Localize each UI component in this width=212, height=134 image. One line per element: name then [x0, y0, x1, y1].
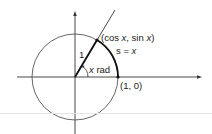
- angle-label: x rad: [88, 64, 110, 75]
- y-axis: [73, 11, 77, 134]
- axis-point-label: (1, 0): [120, 80, 142, 91]
- point-cos-sin: [95, 38, 98, 41]
- arc-length-label: s = x: [116, 45, 138, 56]
- y-axis-arrow-icon: [73, 11, 77, 16]
- arc-label-eq: =: [121, 45, 132, 56]
- x-axis-arrow-icon: [197, 75, 202, 79]
- point-label: (cos x, sin x): [101, 32, 154, 43]
- angle-label-unit: rad: [94, 64, 110, 75]
- radius-label: 1: [79, 49, 84, 60]
- point-label-mid: , sin: [126, 32, 146, 43]
- separator-line: [0, 113, 212, 114]
- arc-label-x: x: [131, 45, 138, 56]
- point-label-close: ): [151, 32, 154, 43]
- x-axis: [17, 75, 202, 79]
- point-one-zero: [116, 75, 119, 78]
- point-label-open: (cos: [101, 32, 122, 43]
